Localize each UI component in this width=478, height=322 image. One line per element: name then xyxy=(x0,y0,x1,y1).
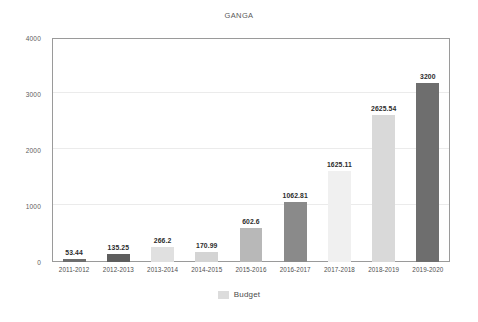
x-tick-label: 2018-2019 xyxy=(368,266,399,273)
chart-title: GANGA xyxy=(0,11,478,20)
gridline xyxy=(53,148,449,149)
bar-chart: GANGA 01000200030004000 53.44135.25266.2… xyxy=(0,0,478,322)
legend-swatch-icon xyxy=(218,291,229,299)
x-tick-label: 2019-2020 xyxy=(412,266,443,273)
y-axis: 01000200030004000 xyxy=(0,38,48,262)
gridline xyxy=(53,92,449,93)
x-tick-label: 2017-2018 xyxy=(324,266,355,273)
x-tick-label: 2014-2015 xyxy=(191,266,222,273)
gridlines xyxy=(53,39,449,261)
x-axis: 2011-20122012-20132013-20142014-20152015… xyxy=(52,266,450,280)
y-tick-label: 0 xyxy=(37,259,41,266)
legend-item[interactable]: Budget xyxy=(218,290,261,299)
y-tick-label: 1000 xyxy=(26,203,41,210)
x-tick-label: 2016-2017 xyxy=(280,266,311,273)
plot-area xyxy=(52,38,450,262)
y-tick-label: 3000 xyxy=(26,91,41,98)
gridline xyxy=(53,204,449,205)
chart-legend: Budget xyxy=(0,290,478,299)
x-tick-label: 2011-2012 xyxy=(59,266,90,273)
x-tick-label: 2013-2014 xyxy=(147,266,178,273)
y-tick-label: 4000 xyxy=(26,35,41,42)
y-tick-label: 2000 xyxy=(26,147,41,154)
legend-label: Budget xyxy=(234,290,261,299)
x-tick-label: 2015-2016 xyxy=(235,266,266,273)
x-tick-label: 2012-2013 xyxy=(103,266,134,273)
